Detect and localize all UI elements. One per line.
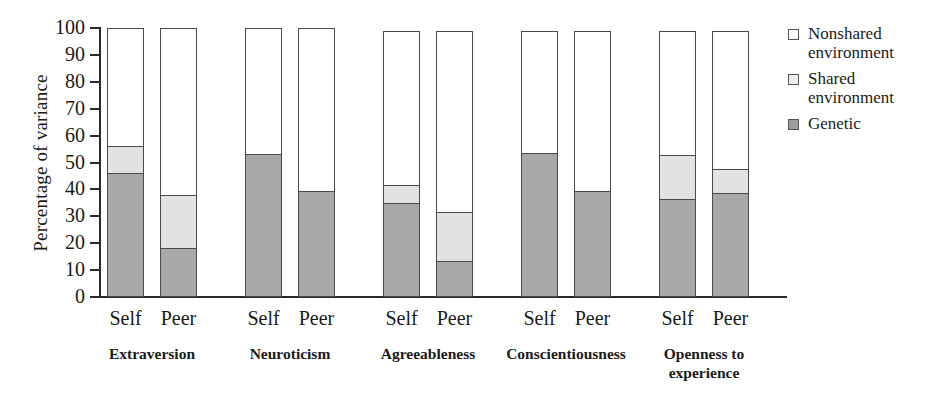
segment-shared-environment	[161, 195, 196, 248]
segment-nonshared-environment	[108, 29, 143, 146]
segment-nonshared-environment	[299, 29, 334, 191]
stacked-bar-chart: Percentage of variance 01020304050607080…	[0, 0, 942, 414]
y-tick-mark	[90, 269, 99, 271]
legend-swatch-shared-icon	[788, 74, 799, 85]
y-tick-label: 30	[65, 203, 85, 227]
bar-openness-to-experience-peer	[712, 31, 749, 297]
plot-area	[104, 28, 776, 297]
legend-item-nonshared: Nonsharedenvironment	[788, 24, 940, 62]
y-tick-mark	[90, 296, 99, 298]
segment-nonshared-environment	[246, 29, 281, 154]
y-axis-line	[99, 27, 101, 298]
segment-shared-environment	[437, 212, 472, 261]
chart-legend: NonsharedenvironmentSharedenvironmentGen…	[788, 24, 940, 140]
y-tick-label: 20	[65, 230, 85, 254]
y-tick-label: 70	[65, 96, 85, 120]
segment-genetic	[108, 173, 143, 296]
y-tick-mark	[90, 27, 99, 29]
segment-genetic	[522, 153, 557, 296]
segment-genetic	[660, 199, 695, 296]
legend-swatch-nonshared-icon	[788, 29, 799, 40]
segment-shared-environment	[108, 146, 143, 173]
bar-label-peer: Peer	[422, 306, 487, 330]
segment-genetic	[161, 248, 196, 296]
legend-label-nonshared: Nonsharedenvironment	[808, 24, 894, 62]
bar-agreeableness-self	[383, 31, 420, 297]
y-tick-mark	[90, 54, 99, 56]
bar-label-peer: Peer	[698, 306, 763, 330]
y-tick-label: 90	[65, 42, 85, 66]
y-tick-mark	[90, 135, 99, 137]
y-axis-title: Percentage of variance	[30, 38, 52, 288]
y-tick-mark	[90, 108, 99, 110]
bar-extraversion-peer	[160, 28, 197, 297]
bar-extraversion-self	[107, 28, 144, 297]
legend-label-shared: Sharedenvironment	[808, 69, 894, 107]
y-tick-label: 40	[65, 176, 85, 200]
bar-agreeableness-peer	[436, 31, 473, 297]
bar-label-peer: Peer	[146, 306, 211, 330]
segment-nonshared-environment	[660, 32, 695, 155]
segment-nonshared-environment	[575, 32, 610, 191]
bar-neuroticism-self	[245, 28, 282, 297]
y-tick-mark	[90, 188, 99, 190]
group-label-openness-to-experience: Openness toexperience	[599, 344, 809, 382]
segment-genetic	[437, 261, 472, 296]
segment-nonshared-environment	[384, 32, 419, 186]
segment-shared-environment	[660, 155, 695, 199]
segment-genetic	[299, 191, 334, 296]
legend-swatch-genetic-icon	[788, 119, 799, 130]
y-tick-label: 60	[65, 123, 85, 147]
y-tick-label: 0	[75, 284, 85, 308]
y-tick-label: 100	[55, 15, 85, 39]
y-tick-mark	[90, 242, 99, 244]
bar-label-peer: Peer	[284, 306, 349, 330]
y-tick-mark	[90, 162, 99, 164]
y-tick-label: 10	[65, 257, 85, 281]
y-tick-mark	[90, 81, 99, 83]
segment-genetic	[246, 154, 281, 296]
bar-conscientiousness-peer	[574, 31, 611, 297]
bar-neuroticism-peer	[298, 28, 335, 297]
segment-shared-environment	[713, 169, 748, 193]
y-tick-label: 50	[65, 150, 85, 174]
segment-nonshared-environment	[522, 32, 557, 153]
y-tick-label: 80	[65, 69, 85, 93]
legend-item-shared: Sharedenvironment	[788, 69, 940, 107]
segment-nonshared-environment	[437, 32, 472, 212]
segment-nonshared-environment	[161, 29, 196, 195]
bar-conscientiousness-self	[521, 31, 558, 297]
y-tick-mark	[90, 215, 99, 217]
bar-openness-to-experience-self	[659, 31, 696, 297]
legend-label-genetic: Genetic	[808, 114, 861, 133]
legend-item-genetic: Genetic	[788, 114, 940, 133]
segment-genetic	[384, 203, 419, 296]
segment-genetic	[575, 191, 610, 296]
segment-genetic	[713, 193, 748, 296]
segment-nonshared-environment	[713, 32, 748, 169]
bar-label-peer: Peer	[560, 306, 625, 330]
segment-shared-environment	[384, 185, 419, 202]
